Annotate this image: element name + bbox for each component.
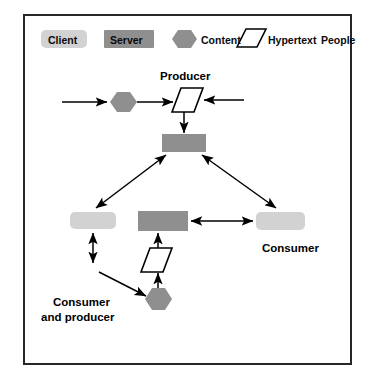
annotation-producer: Producer bbox=[160, 70, 211, 83]
legend-label-content: Content bbox=[201, 34, 241, 46]
annotation-consumer: Consumer bbox=[262, 242, 319, 255]
annotation-consumer-and-producer-line1: Consumer bbox=[53, 296, 110, 309]
legend-label-hypertext: Hypertext bbox=[268, 34, 316, 46]
legend-label-client: Client bbox=[48, 34, 77, 46]
legend-label-server: Server bbox=[110, 34, 143, 46]
diagram-root: Client Server Content Hypertext People bbox=[0, 0, 374, 383]
annotation-consumer-and-producer-line2: and producer bbox=[41, 311, 114, 324]
legend-label-people: People bbox=[321, 34, 355, 46]
